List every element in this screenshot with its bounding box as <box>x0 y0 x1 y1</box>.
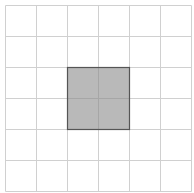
grid-diagram <box>0 0 194 193</box>
grid-canvas <box>0 0 194 193</box>
highlighted-region <box>68 68 130 130</box>
